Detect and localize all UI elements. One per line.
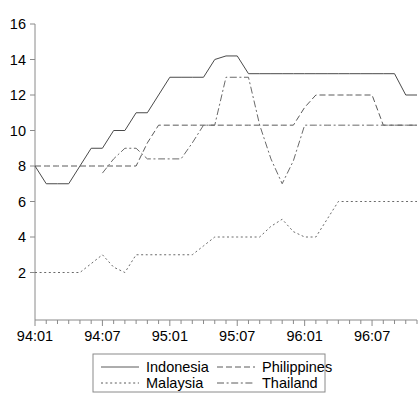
- legend-label-malaysia: Malaysia: [146, 375, 204, 391]
- x-tick-label: 95:07: [219, 328, 255, 344]
- y-axis: 246810121416: [10, 16, 35, 320]
- series-line-thailand: [102, 77, 417, 184]
- y-tick-label: 14: [10, 52, 26, 68]
- legend-label-indonesia: Indonesia: [146, 359, 210, 375]
- x-tick-label: 95:01: [152, 328, 188, 344]
- y-tick-label: 2: [18, 265, 26, 281]
- x-tick-label: 96:07: [354, 328, 390, 344]
- x-tick-label: 96:01: [286, 328, 322, 344]
- y-tick-label: 8: [18, 158, 26, 174]
- legend-label-thailand: Thailand: [262, 375, 318, 391]
- chart-plot-area: 246810121416 94:0194:0795:0195:0796:0196…: [0, 0, 419, 352]
- chart-legend: IndonesiaPhilippinesMalaysiaThailand: [0, 350, 419, 400]
- y-tick-label: 4: [18, 229, 26, 245]
- y-tick-label: 16: [10, 16, 26, 32]
- x-axis: 94:0194:0795:0195:0796:0196:07: [17, 320, 417, 344]
- line-chart: 246810121416 94:0194:0795:0195:0796:0196…: [0, 0, 419, 408]
- y-tick-label: 10: [10, 123, 26, 139]
- data-series-group: [35, 56, 417, 273]
- x-tick-label: 94:07: [84, 328, 120, 344]
- legend-label-philippines: Philippines: [262, 359, 332, 375]
- y-tick-label: 6: [18, 194, 26, 210]
- x-tick-label: 94:01: [17, 328, 53, 344]
- series-line-philippines: [35, 95, 417, 166]
- y-tick-label: 12: [10, 87, 26, 103]
- series-line-malaysia: [35, 202, 417, 273]
- series-line-indonesia: [35, 56, 417, 184]
